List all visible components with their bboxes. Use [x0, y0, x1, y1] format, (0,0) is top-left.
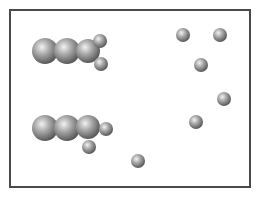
free-atom — [176, 28, 190, 42]
small-atom — [93, 34, 107, 48]
molecule-top — [32, 34, 108, 71]
small-atom — [99, 122, 113, 136]
free-atoms-group — [131, 28, 231, 168]
small-atom — [94, 57, 108, 71]
large-atom — [76, 115, 100, 139]
free-atom — [189, 115, 203, 129]
molecules-group — [32, 34, 113, 154]
free-atom — [194, 58, 208, 72]
small-atom — [82, 140, 96, 154]
particle-scene — [0, 0, 260, 199]
free-atom — [213, 28, 227, 42]
free-atom — [131, 154, 145, 168]
molecule-bottom — [32, 115, 113, 154]
free-atom — [217, 92, 231, 106]
